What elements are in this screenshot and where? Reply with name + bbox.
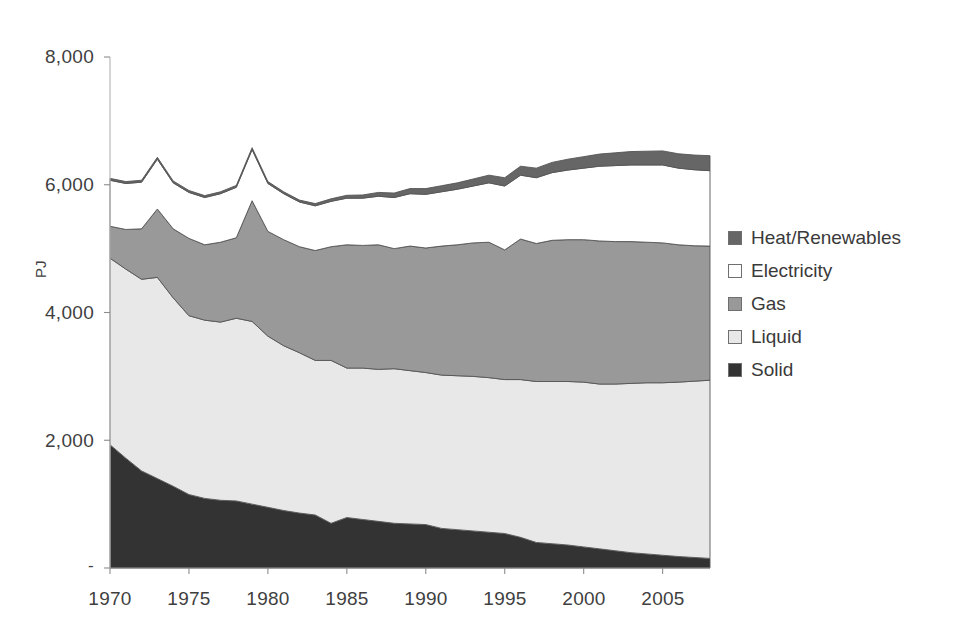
legend-swatch-electricity: [728, 264, 742, 278]
chart-legend: Heat/Renewables Electricity Gas Liquid S…: [728, 228, 901, 379]
legend-label: Solid: [751, 360, 793, 379]
x-tick-marks: [110, 568, 663, 574]
legend-item-liquid: Liquid: [728, 327, 901, 346]
legend-label: Electricity: [751, 261, 832, 280]
legend-swatch-heat-renewables: [728, 231, 742, 245]
legend-label: Heat/Renewables: [751, 228, 901, 247]
legend-item-heat-renewables: Heat/Renewables: [728, 228, 901, 247]
legend-item-gas: Gas: [728, 294, 901, 313]
legend-swatch-gas: [728, 297, 742, 311]
area-series-group: [110, 148, 710, 568]
chart-figure: PJ 8,000 6,000 4,000 2,000 - 1970 1975 1…: [0, 0, 953, 635]
legend-label: Liquid: [751, 327, 802, 346]
y-tick-marks: [104, 57, 110, 568]
legend-item-electricity: Electricity: [728, 261, 901, 280]
legend-item-solid: Solid: [728, 360, 901, 379]
legend-swatch-solid: [728, 363, 742, 377]
legend-label: Gas: [751, 294, 786, 313]
legend-swatch-liquid: [728, 330, 742, 344]
